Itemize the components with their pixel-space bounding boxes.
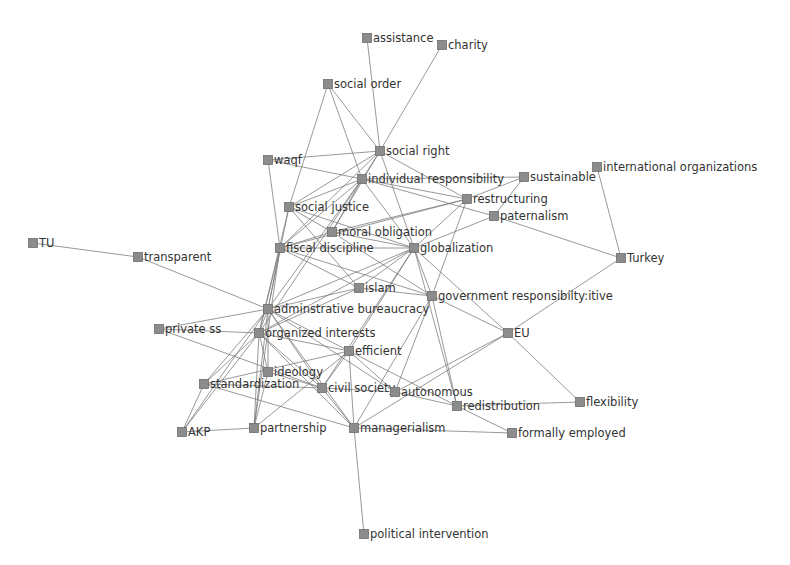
- node-autonomous[interactable]: autonomous: [391, 385, 473, 399]
- node-square-icon[interactable]: [360, 530, 369, 539]
- node-square-icon[interactable]: [376, 147, 385, 156]
- node-fiscal_discipline[interactable]: fiscal discipline: [276, 241, 374, 255]
- node-label: moral obligation: [338, 225, 432, 239]
- node-label: transparent: [144, 250, 212, 264]
- node-square-icon[interactable]: [410, 244, 419, 253]
- node-square-icon[interactable]: [328, 228, 337, 237]
- node-eu[interactable]: EU: [504, 326, 530, 340]
- node-square-icon[interactable]: [576, 398, 585, 407]
- node-label: formally employed: [518, 426, 626, 440]
- node-square-icon[interactable]: [178, 428, 187, 437]
- node-label: political intervention: [370, 527, 489, 541]
- node-social_right[interactable]: social right: [376, 144, 450, 158]
- node-globalization[interactable]: globalization: [410, 241, 494, 255]
- node-civil_society[interactable]: civil society: [318, 381, 396, 395]
- node-square-icon[interactable]: [438, 41, 447, 50]
- node-label: private ss: [165, 322, 221, 336]
- network-diagram: assistancecharitysocial ordersocial righ…: [0, 0, 790, 565]
- edge-globalization-civil_society: [322, 248, 414, 388]
- node-formally_employed[interactable]: formally employed: [508, 426, 626, 440]
- node-label: government responsibilty:itive: [438, 289, 613, 303]
- node-akp[interactable]: AKP: [178, 425, 211, 439]
- node-square-icon[interactable]: [264, 305, 273, 314]
- node-social_justice[interactable]: social justice: [285, 200, 370, 214]
- node-label: assistance: [373, 31, 433, 45]
- node-tu[interactable]: TU: [29, 236, 55, 250]
- node-flexibility[interactable]: flexibility: [576, 395, 639, 409]
- node-political_intervention[interactable]: political intervention: [360, 527, 489, 541]
- node-moral_obligation[interactable]: moral obligation: [328, 225, 432, 239]
- node-label: efficient: [355, 344, 402, 358]
- node-efficient[interactable]: efficient: [345, 344, 403, 358]
- node-square-icon[interactable]: [508, 429, 517, 438]
- node-label: globalization: [420, 241, 493, 255]
- node-label: waqf: [274, 153, 303, 167]
- node-square-icon[interactable]: [324, 80, 333, 89]
- node-square-icon[interactable]: [264, 368, 273, 377]
- edge-international_organizations-turkey: [597, 167, 621, 258]
- node-label: partnership: [260, 421, 326, 435]
- node-square-icon[interactable]: [490, 212, 499, 221]
- node-private_ss[interactable]: private ss: [155, 322, 222, 336]
- node-label: civil society: [328, 381, 395, 395]
- node-paternalism[interactable]: paternalism: [490, 209, 569, 223]
- node-label: standardization: [210, 377, 299, 391]
- node-transparent[interactable]: transparent: [134, 250, 212, 264]
- node-square-icon[interactable]: [363, 34, 372, 43]
- node-square-icon[interactable]: [318, 384, 327, 393]
- node-square-icon[interactable]: [155, 325, 164, 334]
- edge-managerialism-political_intervention: [354, 428, 364, 534]
- node-organized_interests[interactable]: organized interests: [255, 326, 376, 340]
- node-layer: assistancecharitysocial ordersocial righ…: [29, 31, 758, 541]
- edge-social_order-social_right: [328, 84, 380, 151]
- node-waqf[interactable]: waqf: [264, 153, 303, 167]
- node-label: charity: [448, 38, 488, 52]
- node-label: TU: [38, 236, 54, 250]
- node-charity[interactable]: charity: [438, 38, 489, 52]
- node-label: Turkey: [626, 251, 665, 265]
- node-redistribution[interactable]: redistribution: [453, 399, 541, 413]
- node-social_order[interactable]: social order: [324, 77, 402, 91]
- node-sustainable[interactable]: sustainable: [520, 170, 596, 184]
- node-managerialism[interactable]: managerialism: [350, 421, 446, 435]
- edge-eu-flexibility: [508, 333, 580, 402]
- node-turkey[interactable]: Turkey: [617, 251, 665, 265]
- node-square-icon[interactable]: [250, 424, 259, 433]
- node-square-icon[interactable]: [200, 380, 209, 389]
- node-label: islam: [365, 281, 396, 295]
- node-restructuring[interactable]: restructuring: [463, 192, 548, 206]
- node-label: fiscal discipline: [286, 241, 374, 255]
- node-square-icon[interactable]: [391, 388, 400, 397]
- node-islam[interactable]: islam: [355, 281, 396, 295]
- node-square-icon[interactable]: [255, 329, 264, 338]
- node-international_organizations[interactable]: international organizations: [593, 160, 758, 174]
- node-square-icon[interactable]: [358, 175, 367, 184]
- node-square-icon[interactable]: [593, 163, 602, 172]
- edge-charity-social_right: [380, 45, 442, 151]
- node-square-icon[interactable]: [264, 156, 273, 165]
- node-label: restructuring: [473, 192, 548, 206]
- node-government_responsibility[interactable]: government responsibilty:itive: [428, 289, 613, 303]
- node-square-icon[interactable]: [428, 292, 437, 301]
- node-square-icon[interactable]: [617, 254, 626, 263]
- node-adminstrative_bureaucracy[interactable]: adminstrative bureaucracy: [264, 302, 430, 316]
- node-standardization[interactable]: standardization: [200, 377, 300, 391]
- node-square-icon[interactable]: [504, 329, 513, 338]
- edge-waqf-fiscal_discipline: [268, 160, 280, 248]
- node-square-icon[interactable]: [345, 347, 354, 356]
- node-square-icon[interactable]: [463, 195, 472, 204]
- node-square-icon[interactable]: [355, 284, 364, 293]
- node-square-icon[interactable]: [453, 402, 462, 411]
- node-assistance[interactable]: assistance: [363, 31, 434, 45]
- node-square-icon[interactable]: [520, 173, 529, 182]
- node-square-icon[interactable]: [285, 203, 294, 212]
- node-label: managerialism: [360, 421, 446, 435]
- node-square-icon[interactable]: [134, 253, 143, 262]
- node-partnership[interactable]: partnership: [250, 421, 327, 435]
- node-individual_responsibility[interactable]: individual responsibility: [358, 172, 505, 186]
- node-square-icon[interactable]: [29, 239, 38, 248]
- node-square-icon[interactable]: [276, 244, 285, 253]
- node-square-icon[interactable]: [350, 424, 359, 433]
- node-label: AKP: [188, 425, 210, 439]
- node-label: adminstrative bureaucracy: [274, 302, 429, 316]
